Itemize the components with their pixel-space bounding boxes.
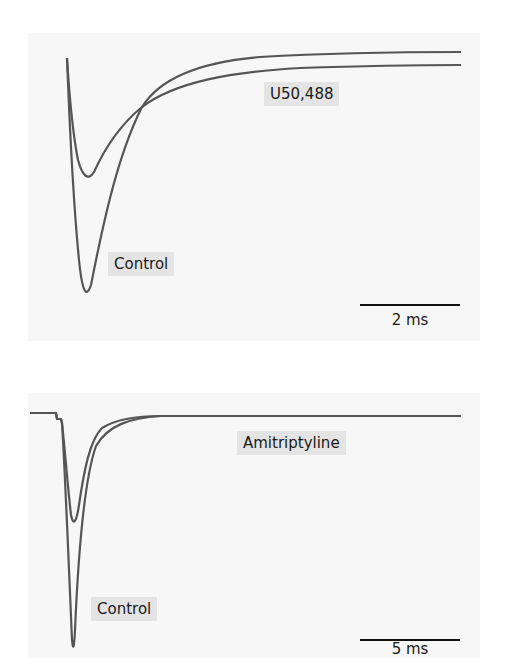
top-scale-bar: [360, 304, 460, 306]
top-scale-label: 2 ms: [360, 311, 460, 329]
bottom-control-label: Control: [91, 597, 157, 621]
top-u50488-trace: [67, 58, 461, 177]
amitriptyline-label: Amitriptyline: [237, 431, 346, 455]
top-control-label: Control: [108, 252, 174, 276]
bottom-amitriptyline-trace: [30, 413, 461, 522]
u50488-label: U50,488: [264, 82, 339, 106]
traces-canvas: [0, 0, 506, 658]
bottom-scale-label: 5 ms: [360, 640, 460, 658]
